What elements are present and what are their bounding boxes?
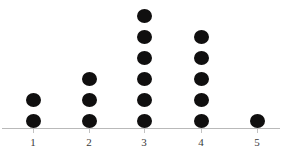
plot-area: 1 2 3 4 5 bbox=[0, 0, 287, 160]
x-axis-tick-2 bbox=[89, 129, 90, 133]
data-dot bbox=[137, 114, 152, 128]
x-axis-line bbox=[2, 128, 280, 129]
x-axis-tick-3 bbox=[144, 129, 145, 133]
x-axis-tick-5 bbox=[257, 129, 258, 133]
data-dot bbox=[82, 93, 97, 107]
data-dot bbox=[250, 114, 265, 128]
data-dot bbox=[194, 30, 209, 44]
data-dot bbox=[137, 93, 152, 107]
data-dot bbox=[137, 51, 152, 65]
data-dot bbox=[82, 114, 97, 128]
data-dot bbox=[137, 30, 152, 44]
x-axis-label-5: 5 bbox=[244, 136, 270, 149]
data-dot bbox=[194, 93, 209, 107]
x-axis-label-2: 2 bbox=[76, 136, 102, 149]
data-dot bbox=[82, 72, 97, 86]
data-dot bbox=[194, 114, 209, 128]
x-axis-label-4: 4 bbox=[188, 136, 214, 149]
data-dot bbox=[26, 114, 41, 128]
data-dot bbox=[194, 51, 209, 65]
data-dot bbox=[26, 93, 41, 107]
x-axis-tick-1 bbox=[33, 129, 34, 133]
x-axis-label-3: 3 bbox=[131, 136, 157, 149]
data-dot bbox=[137, 9, 152, 23]
data-dot bbox=[194, 72, 209, 86]
x-axis-label-1: 1 bbox=[20, 136, 46, 149]
data-dot bbox=[137, 72, 152, 86]
x-axis-tick-4 bbox=[201, 129, 202, 133]
dot-plot-chart: 1 2 3 4 5 bbox=[0, 0, 287, 160]
